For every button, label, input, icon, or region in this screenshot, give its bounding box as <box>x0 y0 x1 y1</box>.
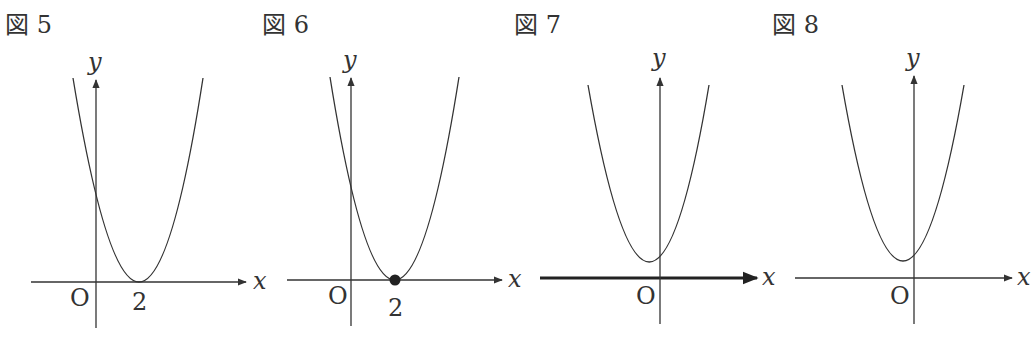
x-axis-label: x <box>762 263 776 291</box>
vertex-point <box>390 275 401 286</box>
y-axis-label: y <box>905 44 920 72</box>
parabola-curve <box>842 85 964 261</box>
figure-label: 図 8 <box>772 11 819 39</box>
origin-label: O <box>636 282 656 310</box>
x-axis-label: x <box>1017 263 1031 291</box>
tick-label-2: 2 <box>132 288 147 316</box>
figure-label: 図 6 <box>262 11 309 39</box>
figure-6: 図 6 x y O 2 <box>262 11 522 326</box>
x-axis-label: x <box>253 267 267 295</box>
figure-label: 図 7 <box>514 11 561 39</box>
figures-canvas: 図 5 x y O 2 図 6 x y O 2 図 7 x y O 図 8 x … <box>0 0 1034 340</box>
figure-5: 図 5 x y O 2 <box>5 11 267 328</box>
x-axis-label: x <box>508 265 522 293</box>
parabola-curve <box>73 78 203 282</box>
origin-label: O <box>328 282 348 310</box>
origin-label: O <box>890 282 910 310</box>
figure-8: 図 8 x y O <box>772 11 1031 324</box>
tick-label-2: 2 <box>388 294 403 322</box>
y-axis-label: y <box>87 48 102 76</box>
figure-label: 図 5 <box>5 11 52 39</box>
figure-7: 図 7 x y O <box>514 11 776 324</box>
parabola-curve <box>588 85 709 262</box>
y-axis-label: y <box>342 46 357 74</box>
parabola-curve <box>330 77 459 280</box>
y-axis-label: y <box>651 44 666 72</box>
origin-label: O <box>70 284 90 312</box>
